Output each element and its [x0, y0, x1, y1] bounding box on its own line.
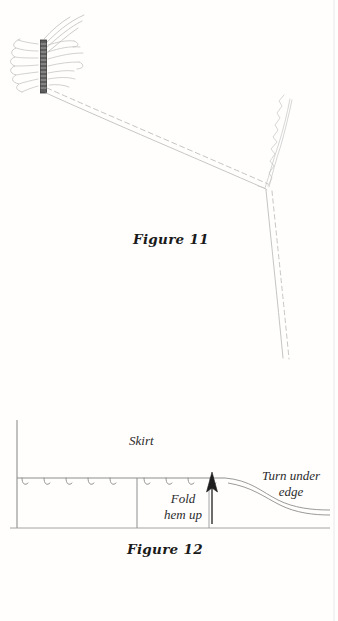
hem-stitch-marks — [22, 478, 216, 484]
dashed-stitching-line — [47, 88, 268, 184]
turn-under-edge-label-line1: Turn under — [247, 468, 335, 484]
figures-artwork — [0, 0, 338, 621]
zigzag-overlock-edge — [265, 95, 292, 188]
turn-under-edge-label-line2: edge — [247, 484, 335, 500]
fold-hem-up-label: Fold hem up — [152, 491, 214, 524]
gather-lines-upper — [44, 15, 84, 55]
figure-11-caption: Figure 11 — [133, 231, 209, 247]
fold-hem-up-label-line2: hem up — [152, 507, 214, 523]
cuff-band — [41, 40, 47, 93]
figure-11-artwork — [11, 15, 293, 359]
figure-12-caption: Figure 12 — [127, 541, 203, 557]
skirt-label: Skirt — [129, 433, 154, 449]
fold-hem-up-label-line1: Fold — [152, 491, 214, 507]
seam-line — [46, 93, 266, 189]
scanned-page: Figure 11 Skirt Fold hem up Turn under e… — [0, 0, 338, 621]
gathered-fabric-outline — [11, 39, 23, 92]
turn-under-edge-label: Turn under edge — [247, 468, 335, 501]
